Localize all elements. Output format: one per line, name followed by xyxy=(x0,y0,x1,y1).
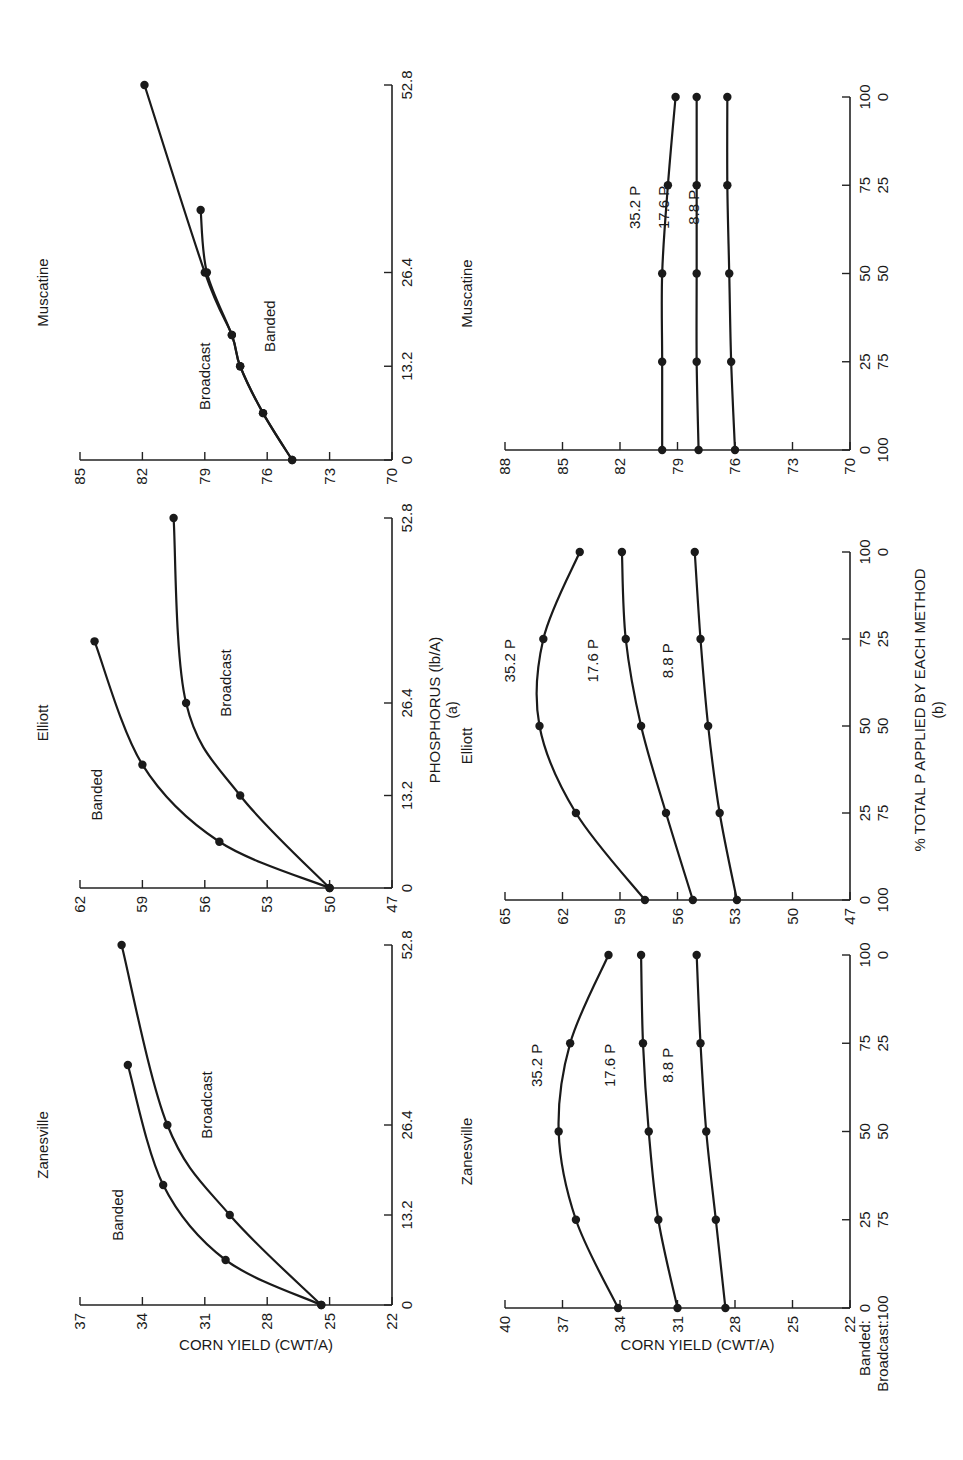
y-tick-label: 76 xyxy=(258,468,275,485)
data-point xyxy=(637,951,645,959)
chart-title: Zanesville xyxy=(34,1111,51,1179)
series-label: Broadcast xyxy=(217,648,234,716)
y-tick-label: 82 xyxy=(611,458,628,475)
x-tick-label-broadcast: 50 xyxy=(874,1123,891,1140)
y-tick-label: 31 xyxy=(196,1313,213,1330)
y-tick-label: 59 xyxy=(133,896,150,913)
data-point xyxy=(618,548,626,556)
x-tick-label: 26.4 xyxy=(398,1110,415,1139)
x-tick-label-banded: 50 xyxy=(856,718,873,735)
data-point xyxy=(658,269,666,277)
data-point xyxy=(604,951,612,959)
data-point xyxy=(692,181,700,189)
data-point xyxy=(654,1216,662,1224)
x-tick-label: 52.8 xyxy=(398,930,415,959)
x-tick-label-broadcast: 50 xyxy=(874,718,891,735)
series-label: 8.8 P xyxy=(659,643,676,678)
data-point xyxy=(715,809,723,817)
x-tick-label-broadcast: 0 xyxy=(874,93,891,101)
data-point xyxy=(535,722,543,730)
x-tick-label: 26.4 xyxy=(398,688,415,717)
y-tick-label: 85 xyxy=(71,468,88,485)
data-point xyxy=(221,1256,229,1264)
data-point xyxy=(138,760,146,768)
data-point xyxy=(622,635,630,643)
data-point xyxy=(236,362,244,370)
data-point xyxy=(288,456,296,464)
data-point xyxy=(733,896,741,904)
chart-title: Zanesville xyxy=(458,1118,475,1186)
x-tick-label-broadcast: 25 xyxy=(874,631,891,648)
data-point xyxy=(201,268,209,276)
x-tick-label-banded: 75 xyxy=(856,631,873,648)
data-point xyxy=(658,446,666,454)
data-point xyxy=(712,1216,720,1224)
y-tick-label: 22 xyxy=(383,1313,400,1330)
x-tick-label-broadcast: 25 xyxy=(874,177,891,194)
series-label: 8.8 P xyxy=(685,190,702,225)
data-point xyxy=(554,1127,562,1135)
series-label: 35.2 P xyxy=(501,639,518,682)
y-tick-label: 50 xyxy=(321,896,338,913)
x-tick-label-broadcast: 75 xyxy=(874,353,891,370)
figure-canvas: 222528313437013.226.452.8ZanesvilleBande… xyxy=(0,0,963,1460)
series-label: Broadcast xyxy=(196,342,213,410)
data-point xyxy=(228,331,236,339)
y-tick-label: 53 xyxy=(258,896,275,913)
series-label: Banded xyxy=(261,300,278,352)
x-tick-label-broadcast: 25 xyxy=(874,1035,891,1052)
y-tick-label: 34 xyxy=(611,1316,628,1333)
y-tick-label: 40 xyxy=(496,1316,513,1333)
data-point xyxy=(572,1216,580,1224)
chart-title: Elliott xyxy=(458,727,475,765)
row-a-xlabel: PHOSPHORUS (lb/A) xyxy=(426,637,443,784)
y-tick-label: 25 xyxy=(321,1313,338,1330)
x-tick-label-banded: 25 xyxy=(856,353,873,370)
data-point xyxy=(692,358,700,366)
data-point xyxy=(159,1181,167,1189)
x-tick-label-banded: 0 xyxy=(856,896,873,904)
x-tick-label-broadcast: 100 xyxy=(874,1295,891,1320)
y-tick-label: 85 xyxy=(554,458,571,475)
series-label: 35.2 P xyxy=(528,1044,545,1087)
data-point xyxy=(140,81,148,89)
row-b-xlabel: % TOTAL P APPLIED BY EACH METHOD xyxy=(911,568,928,851)
data-point xyxy=(673,1304,681,1312)
series-label: Banded xyxy=(109,1189,126,1241)
data-point xyxy=(163,1121,171,1129)
series-line xyxy=(622,552,693,900)
data-point xyxy=(182,699,190,707)
x-tick-label-banded: 100 xyxy=(856,539,873,564)
series-line xyxy=(559,955,619,1308)
series-label: 17.6 P xyxy=(655,186,672,229)
y-tick-label: 37 xyxy=(554,1316,571,1333)
series-line xyxy=(144,85,292,460)
x-tick-label-broadcast: 100 xyxy=(874,437,891,462)
data-point xyxy=(671,93,679,101)
data-point xyxy=(692,93,700,101)
x-tick-label: 0 xyxy=(398,884,415,892)
data-point xyxy=(539,635,547,643)
x-tick-label-banded: 25 xyxy=(856,1211,873,1228)
y-tick-label: 25 xyxy=(784,1316,801,1333)
row-a-tag: (a) xyxy=(444,701,460,718)
series-line xyxy=(128,1065,321,1305)
y-tick-label: 73 xyxy=(321,468,338,485)
x-tick-label: 0 xyxy=(398,1301,415,1309)
x-tick-label-banded: 0 xyxy=(856,446,873,454)
x-tick-label-banded: 100 xyxy=(856,942,873,967)
y-axis-label: CORN YIELD (CWT/A) xyxy=(179,1336,333,1353)
row-b-tag: (b) xyxy=(930,701,946,718)
data-point xyxy=(226,1211,234,1219)
x-tick-label-broadcast: 0 xyxy=(874,548,891,556)
data-point xyxy=(696,635,704,643)
data-point xyxy=(576,548,584,556)
data-point xyxy=(725,269,733,277)
broadcast-axis-legend: Broadcast: xyxy=(874,1320,891,1392)
data-point xyxy=(566,1039,574,1047)
x-tick-label: 26.4 xyxy=(398,258,415,287)
data-point xyxy=(689,896,697,904)
x-tick-label: 52.8 xyxy=(398,70,415,99)
data-point xyxy=(325,884,333,892)
y-tick-label: 59 xyxy=(611,908,628,925)
